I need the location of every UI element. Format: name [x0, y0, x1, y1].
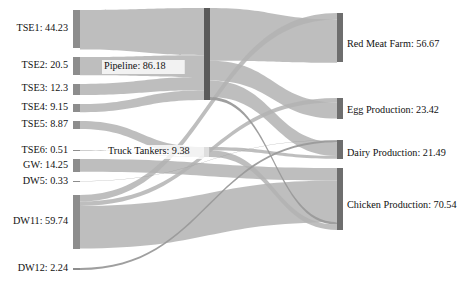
node-label-chickenproduction: Chicken Production: 70.54 [347, 199, 457, 210]
sankey-node-tse4[interactable] [73, 104, 80, 112]
node-label-gw: GW: 14.25 [23, 159, 68, 170]
sankey-chart: TSE1: 44.23TSE2: 20.5TSE3: 12.3TSE4: 9.1… [0, 0, 476, 287]
sankey-node-pipeline[interactable] [204, 8, 210, 100]
sankey-node-tse3[interactable] [73, 84, 80, 95]
sankey-node-dairyproduction[interactable] [337, 140, 343, 159]
sankey-node-dw5[interactable] [73, 181, 80, 182]
sankey-node-tse6[interactable] [73, 150, 80, 151]
sankey-node-tse2[interactable] [73, 57, 80, 75]
node-label-dw12: DW12: 2.24 [18, 262, 68, 273]
sankey-node-dw11[interactable] [73, 195, 80, 249]
node-label-dw5: DW5: 0.33 [23, 175, 68, 186]
node-label-tse2: TSE2: 20.5 [22, 59, 68, 70]
sankey-node-tse5[interactable] [73, 121, 80, 129]
node-label-tse5: TSE5: 8.87 [22, 118, 68, 129]
sankey-node-dw12[interactable] [73, 268, 80, 270]
sankey-node-tse1[interactable] [73, 10, 80, 48]
node-label-tse6: TSE6: 0.51 [22, 144, 68, 155]
node-label-tse1: TSE1: 44.23 [16, 22, 68, 33]
node-label-dairyproduction: Dairy Production: 21.49 [347, 147, 446, 158]
node-label-dw11: DW11: 59.74 [13, 215, 68, 226]
node-label-redmeatfarm: Red Meat Farm: 56.67 [347, 38, 439, 49]
node-label-trucktankers: Truck Tankers: 9.38 [108, 145, 190, 156]
node-label-eggproduction: Egg Production: 23.42 [347, 104, 439, 115]
node-label-tse3: TSE3: 12.3 [22, 82, 68, 93]
sankey-link [80, 8, 204, 55]
sankey-node-gw[interactable] [73, 159, 80, 172]
node-label-pipeline: Pipeline: 86.18 [104, 60, 166, 71]
sankey-node-chickenproduction[interactable] [337, 168, 343, 230]
node-label-tse4: TSE4: 9.15 [22, 101, 68, 112]
sankey-node-eggproduction[interactable] [337, 98, 343, 119]
sankey-svg: TSE1: 44.23TSE2: 20.5TSE3: 12.3TSE4: 9.1… [0, 0, 476, 287]
sankey-node-redmeatfarm[interactable] [337, 13, 343, 62]
